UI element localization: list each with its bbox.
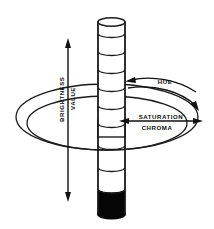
cylinder-upper-body (98, 22, 125, 137)
diagram-canvas: BRIGHTNESS VALUE SATURATION CHROMA HUE (0, 0, 214, 229)
brightness-axis-arrowhead-top (65, 38, 71, 48)
brightness-label: BRIGHTNESS (58, 77, 65, 122)
hue-label: HUE (158, 78, 173, 85)
color-space-diagram: BRIGHTNESS VALUE SATURATION CHROMA HUE (0, 0, 214, 229)
brightness-axis-arrowhead-bottom (65, 192, 71, 202)
brightness-value-axis: BRIGHTNESS VALUE (58, 38, 76, 202)
value-label: VALUE (69, 87, 76, 110)
chroma-label: CHROMA (142, 124, 173, 131)
hue-arrow-head-left (125, 77, 136, 83)
cylinder-top-cap (98, 18, 125, 26)
cylinder-bottom-cap (98, 210, 125, 218)
value-axis-cylinder-upper (98, 18, 125, 137)
hue-axis: HUE (125, 77, 199, 111)
saturation-label: SATURATION (139, 113, 184, 120)
